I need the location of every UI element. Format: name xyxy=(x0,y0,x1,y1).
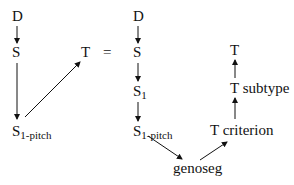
s1pitch-subscript: 1-pitch xyxy=(141,129,172,141)
left-node-s: S xyxy=(12,45,20,60)
right-node-tsubtype: T subtype xyxy=(230,81,289,96)
right-node-genoseg: genoseg xyxy=(173,161,222,176)
left-node-s1pitch: S1-pitch xyxy=(12,124,52,140)
right-node-s: S xyxy=(133,45,141,60)
arrow-s1pitch-to-t-left xyxy=(25,62,80,117)
right-node-s1: S1 xyxy=(133,84,147,100)
s1pitch-subscript: 1-pitch xyxy=(20,129,51,141)
right-node-tcriterion: T criterion xyxy=(210,123,273,138)
left-node-d: D xyxy=(12,9,23,24)
arrow-genoseg-to-tcriterion xyxy=(200,142,227,160)
left-node-t: T xyxy=(81,45,90,60)
equals-sign: = xyxy=(103,45,111,60)
s1-subscript: 1 xyxy=(141,89,147,101)
right-node-s1pitch: S1-pitch xyxy=(133,124,173,140)
right-node-t: T xyxy=(230,43,239,58)
right-node-d: D xyxy=(133,9,144,24)
